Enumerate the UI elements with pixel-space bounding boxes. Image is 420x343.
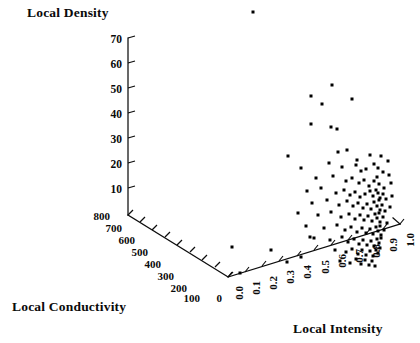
data-point [362,239,365,242]
data-point [339,260,342,263]
data-point [382,193,385,196]
data-point [317,214,320,217]
intensity-tick-label-0-4: 0.4 [301,265,313,279]
data-point [338,204,341,207]
data-point [349,262,352,265]
data-point [363,179,366,182]
conductivity-tick-label-400: 400 [145,258,162,270]
data-point [365,232,368,235]
data-point [379,221,382,224]
data-point [326,199,329,202]
data-point [372,195,375,198]
data-point [309,236,312,239]
data-point [346,200,349,203]
data-point [349,194,352,197]
data-point [343,189,346,192]
data-point [354,218,357,221]
conductivity-tick-label-300: 300 [158,270,175,282]
scatter-plot-3d: 70 60 50 40 30 20 10 800 700 [0,0,420,343]
data-point [358,243,361,246]
conductivity-tick-label-100: 100 [184,292,201,304]
data-point [376,205,379,208]
data-point [355,258,358,261]
data-point [334,249,337,252]
data-point [374,265,377,268]
data-point [239,272,242,275]
conductivity-axis-title: Local Conductivity [12,299,126,314]
intensity-tick-label-0-2: 0.2 [267,276,279,290]
data-point [348,213,351,216]
conductivity-tick-label-700: 700 [106,222,123,234]
data-point [376,176,379,179]
data-point [321,103,324,106]
density-tick-label-10: 10 [111,183,123,195]
density-axis-ticks [128,36,135,188]
intensity-tick-label-0-6: 0.6 [336,254,348,268]
data-point [367,215,370,218]
data-point [360,263,363,266]
data-point [385,198,388,201]
data-point [356,159,359,162]
data-point [369,154,372,157]
data-point [344,229,347,232]
data-point [287,155,290,158]
data-point [378,242,381,245]
intensity-tick-label-1-0: 1.0 [404,233,416,247]
data-point [381,204,384,207]
conductivity-tick-label-800: 800 [94,210,111,222]
data-point [366,203,369,206]
data-point [336,128,339,131]
data-point [369,250,372,253]
data-point [364,259,367,262]
data-point [376,217,379,220]
data-point [328,162,331,165]
data-point [373,163,376,166]
data-point [231,246,234,249]
conductivity-axis: 800 700 600 500 400 300 200 100 0 [94,210,234,304]
data-point [346,149,349,152]
data-point [363,219,366,222]
intensity-axis-cap [393,218,400,224]
data-point [375,249,378,252]
data-point [359,214,362,217]
data-point [345,251,348,254]
data-point [310,95,313,98]
data-point [352,205,355,208]
data-point [376,238,379,241]
data-point [391,195,394,198]
conductivity-tick-label-500: 500 [132,246,149,258]
data-point [388,174,391,177]
intensity-tick-label-0-9: 0.9 [387,238,399,252]
data-point [373,201,376,204]
data-point [335,192,338,195]
data-point [252,11,255,14]
data-point [375,189,378,192]
data-point [347,241,350,244]
data-point [329,239,332,242]
intensity-tick-label-0-5: 0.5 [319,260,331,274]
data-point [351,177,354,180]
data-point [365,168,368,171]
data-point [357,253,360,256]
plot-canvas: 70 60 50 40 30 20 10 800 700 [0,0,420,343]
data-point [390,182,393,185]
data-point [350,226,353,229]
intensity-tick-label-0-0: 0.0 [233,286,245,300]
data-point [380,234,383,237]
data-point [356,231,359,234]
data-point [336,224,339,227]
data-point [353,238,356,241]
intensity-tick-labels: 0.0 0.1 0.2 0.3 0.4 0.5 0.6 0.7 0.8 0.9 … [233,233,416,300]
density-tick-label-40: 40 [111,108,123,120]
data-point [379,225,382,228]
data-point [378,212,381,215]
data-point [384,210,387,213]
data-point [270,249,273,252]
data-point [374,213,377,216]
data-point [300,256,303,259]
data-point [362,207,365,210]
data-point [330,211,333,214]
data-point [361,249,364,252]
data-point [372,255,375,258]
data-point [358,182,361,185]
